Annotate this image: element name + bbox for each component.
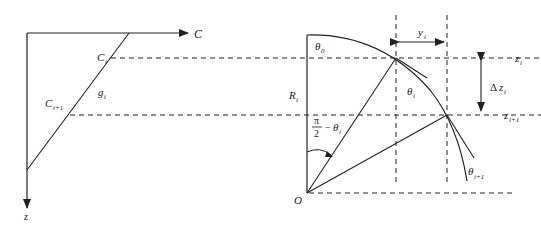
svg-text:C: C <box>45 97 53 109</box>
axis-label-c: C <box>194 27 203 41</box>
svg-text:π: π <box>314 115 319 126</box>
label-theta-i: θ i <box>407 85 415 100</box>
label-origin-o: O <box>294 194 302 206</box>
label-c-i-plus-1: C i+1 <box>45 97 63 112</box>
svg-text:i: i <box>296 96 298 104</box>
label-radius-r-i: R i <box>288 89 298 104</box>
svg-text:i+1: i+1 <box>509 116 519 124</box>
svg-text:Δ: Δ <box>490 81 497 93</box>
label-z-i-plus-1: z i+1 <box>503 109 519 124</box>
svg-text:i: i <box>339 128 341 136</box>
svg-text:R: R <box>288 89 296 101</box>
ray-path-diagram: C z C i C i+1 g i <box>0 0 541 229</box>
svg-text:C: C <box>97 51 105 63</box>
svg-text:−: − <box>325 122 331 133</box>
ray-geometry-panel: θ 0 R i π 2 − θ i θ i θ i+1 y i Δ z <box>288 15 522 206</box>
label-y-i: y i <box>417 26 426 41</box>
label-theta-0: θ 0 <box>315 40 325 55</box>
velocity-gradient-line <box>27 33 129 170</box>
svg-text:y: y <box>417 26 423 38</box>
svg-text:i+1: i+1 <box>53 104 63 112</box>
label-theta-i-plus-1: θ i+1 <box>468 165 484 181</box>
ray-arc <box>307 35 467 181</box>
svg-text:i: i <box>520 59 522 67</box>
svg-text:i: i <box>504 88 506 96</box>
svg-text:0: 0 <box>321 47 325 55</box>
label-delta-z-i: Δ z i <box>490 81 506 96</box>
axis-label-z: z <box>23 211 28 222</box>
tangent-at-point-i <box>396 58 427 78</box>
svg-text:i: i <box>104 93 106 101</box>
radius-to-point-i <box>307 58 396 193</box>
label-z-i: z i <box>514 52 522 67</box>
label-c-i: C i <box>97 51 107 66</box>
label-angle-fraction: π 2 − θ i <box>312 115 341 139</box>
svg-text:i+1: i+1 <box>474 173 484 181</box>
svg-text:i: i <box>413 92 415 100</box>
svg-text:i: i <box>424 33 426 41</box>
svg-text:i: i <box>105 58 107 66</box>
svg-text:2: 2 <box>314 128 319 139</box>
label-g-i: g i <box>98 86 106 101</box>
